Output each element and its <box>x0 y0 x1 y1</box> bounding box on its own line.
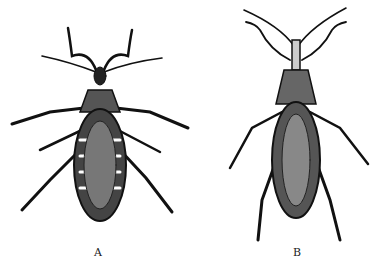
panel-label-b: B <box>293 246 301 259</box>
illustration <box>0 0 383 268</box>
panel-label-a: A <box>94 246 102 259</box>
insect-b-drawing <box>230 8 368 240</box>
insect-a-drawing <box>12 28 188 221</box>
